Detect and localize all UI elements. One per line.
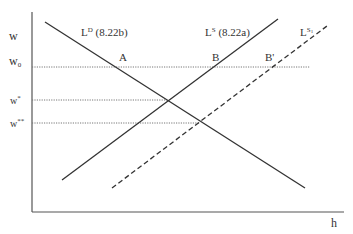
point-a-label: A	[119, 52, 127, 63]
point-bprime-label: B'	[265, 52, 274, 63]
labor-supply-shifted-curve	[112, 26, 327, 188]
w0-label: w0	[9, 55, 21, 69]
labor-demand-label: LD (8.22b)	[81, 27, 128, 38]
x-axis-label: h	[331, 217, 337, 229]
point-b-label: B	[212, 52, 219, 63]
wstarstar-label: w**	[10, 118, 24, 129]
y-axis-label: w	[9, 30, 18, 42]
wstar-label: w*	[10, 95, 21, 106]
labor-supply-shifted-label: LS1	[300, 27, 313, 38]
labor-supply-label: LS (8.22a)	[205, 27, 250, 38]
